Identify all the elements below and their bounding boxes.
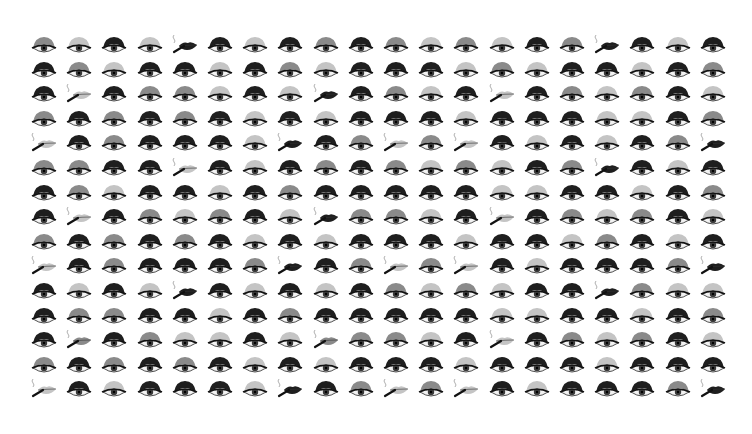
smoking-lips-icon	[275, 377, 305, 399]
eye-icon	[698, 33, 728, 55]
eye-icon	[205, 205, 235, 227]
eye-icon	[205, 328, 235, 350]
eye-icon	[663, 230, 693, 252]
eye-icon	[64, 181, 94, 203]
eye-icon	[346, 353, 376, 375]
eye-icon	[311, 304, 341, 326]
eye-icon	[416, 58, 446, 80]
eye-icon	[99, 230, 129, 252]
eye-icon	[487, 279, 517, 301]
eye-icon	[205, 131, 235, 153]
eye-icon	[240, 304, 270, 326]
smoking-lips-icon	[698, 254, 728, 276]
eye-icon	[29, 58, 59, 80]
eye-icon	[99, 254, 129, 276]
eye-icon	[698, 156, 728, 178]
eye-icon	[381, 353, 411, 375]
eye-icon	[346, 205, 376, 227]
smoking-lips-icon	[451, 254, 481, 276]
eye-icon	[522, 205, 552, 227]
eye-icon	[451, 33, 481, 55]
eye-icon	[240, 82, 270, 104]
eye-icon	[381, 181, 411, 203]
smoking-lips-icon	[487, 328, 517, 350]
eye-icon	[627, 230, 657, 252]
eye-icon	[557, 230, 587, 252]
eye-icon	[627, 304, 657, 326]
eye-icon	[522, 107, 552, 129]
eye-icon	[522, 353, 552, 375]
eye-icon	[205, 254, 235, 276]
eye-icon	[29, 205, 59, 227]
eye-icon	[698, 107, 728, 129]
eye-icon	[311, 181, 341, 203]
eye-icon	[170, 205, 200, 227]
eye-icon	[416, 205, 446, 227]
eye-icon	[99, 328, 129, 350]
smoking-lips-icon	[698, 377, 728, 399]
eye-icon	[346, 328, 376, 350]
eye-icon	[240, 205, 270, 227]
eye-icon	[627, 377, 657, 399]
eye-icon	[557, 33, 587, 55]
eye-icon	[135, 279, 165, 301]
smoking-lips-icon	[487, 205, 517, 227]
smoking-lips-icon	[381, 377, 411, 399]
eye-icon	[698, 58, 728, 80]
eye-icon	[663, 156, 693, 178]
smoking-lips-icon	[29, 254, 59, 276]
eye-icon	[557, 279, 587, 301]
eye-icon	[99, 181, 129, 203]
eye-icon	[135, 304, 165, 326]
eye-icon	[240, 353, 270, 375]
eye-icon	[240, 107, 270, 129]
eye-icon	[451, 304, 481, 326]
eye-icon	[592, 205, 622, 227]
eye-icon	[346, 279, 376, 301]
eye-icon	[170, 230, 200, 252]
eye-icon	[698, 328, 728, 350]
eye-icon	[311, 353, 341, 375]
eye-icon	[170, 377, 200, 399]
eye-icon	[698, 181, 728, 203]
eye-icon	[99, 33, 129, 55]
eye-icon	[205, 156, 235, 178]
eye-icon	[64, 279, 94, 301]
eye-icon	[592, 328, 622, 350]
eye-icon	[557, 156, 587, 178]
eye-icon	[522, 377, 552, 399]
eye-icon	[451, 205, 481, 227]
eye-icon	[592, 131, 622, 153]
eye-icon	[64, 33, 94, 55]
eye-icon	[663, 33, 693, 55]
eye-icon	[346, 107, 376, 129]
smoking-lips-icon	[170, 156, 200, 178]
eye-icon	[451, 181, 481, 203]
eye-icon	[663, 353, 693, 375]
eye-icon	[170, 328, 200, 350]
eye-icon	[487, 181, 517, 203]
eye-icon	[627, 181, 657, 203]
eye-icon	[135, 181, 165, 203]
eye-icon	[346, 156, 376, 178]
eye-icon	[698, 230, 728, 252]
eye-icon	[557, 353, 587, 375]
eye-icon	[135, 353, 165, 375]
eye-icon	[522, 304, 552, 326]
eye-icon	[663, 279, 693, 301]
eye-icon	[522, 156, 552, 178]
eye-icon	[64, 156, 94, 178]
eye-icon	[663, 58, 693, 80]
eye-icon	[311, 254, 341, 276]
eye-icon	[627, 131, 657, 153]
eye-icon	[416, 230, 446, 252]
eye-icon	[592, 82, 622, 104]
eye-icon	[240, 33, 270, 55]
smoking-lips-icon	[698, 131, 728, 153]
eye-icon	[311, 58, 341, 80]
smoking-lips-icon	[451, 377, 481, 399]
eye-icon	[451, 353, 481, 375]
eye-icon	[64, 131, 94, 153]
eye-icon	[311, 377, 341, 399]
eye-icon	[99, 279, 129, 301]
